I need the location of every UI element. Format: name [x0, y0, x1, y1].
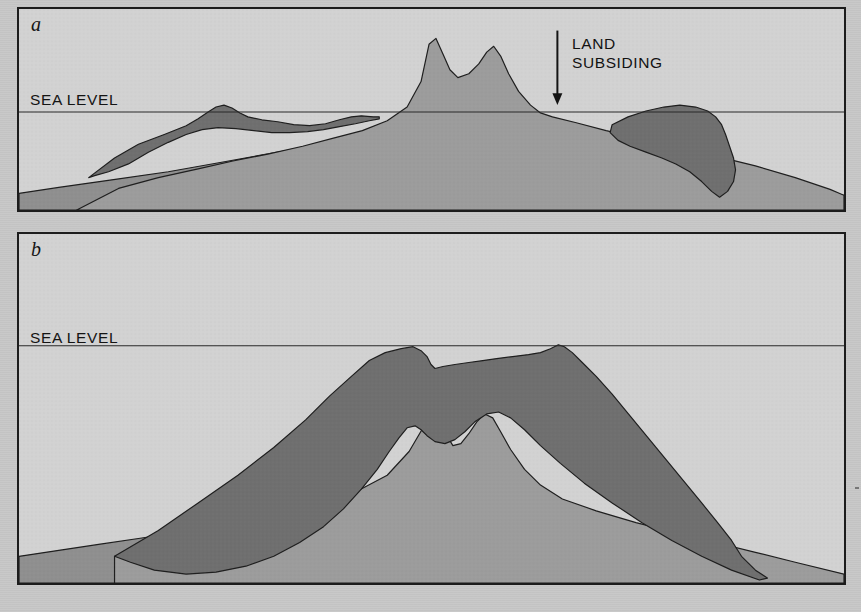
sea-level-label-a: SEA LEVEL — [30, 91, 118, 109]
panel-a: a SEA LEVEL LAND SUBSIDING — [17, 7, 846, 212]
land-subsiding-line-2: SUBSIDING — [572, 53, 663, 72]
panel-label-b: b — [31, 238, 41, 261]
panel-b: b SEA LEVEL — [17, 232, 846, 585]
panel-b-cross-section — [19, 234, 844, 583]
panel-b-content: b SEA LEVEL — [19, 234, 844, 583]
panel-label-a: a — [31, 13, 41, 36]
land-subsiding-annotation: LAND SUBSIDING — [572, 34, 663, 72]
panel-a-cross-section — [19, 9, 844, 210]
sea-level-label-b: SEA LEVEL — [30, 329, 118, 347]
panel-a-content: a SEA LEVEL LAND SUBSIDING — [19, 9, 844, 210]
land-subsiding-line-1: LAND — [572, 34, 663, 53]
